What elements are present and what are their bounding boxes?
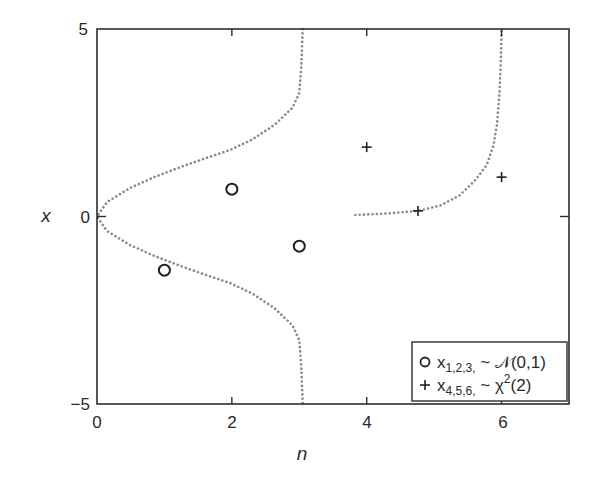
legend-subscript: 4,5,6, xyxy=(446,384,476,398)
legend-dist: ~ χ xyxy=(476,376,504,395)
plus-data-point xyxy=(497,172,507,182)
y-tick-label-5: 5 xyxy=(79,20,88,39)
x-tick-label-0: 0 xyxy=(92,413,101,432)
circle-data-point xyxy=(159,265,170,276)
legend-subscript: 1,2,3, xyxy=(446,361,476,375)
x-tick-label-2: 2 xyxy=(227,413,236,432)
legend-entry-chisq: x4,5,6, ~ χ2(2) xyxy=(420,372,531,398)
y-tick-label-neg5: −5 xyxy=(71,395,90,414)
x-tick-label-6: 6 xyxy=(498,413,507,432)
x-axis-label: n xyxy=(297,443,308,464)
data-markers xyxy=(159,142,507,276)
legend-dist-tail: (2) xyxy=(511,376,532,395)
chart: 0 2 4 6 5 0 −5 n x x1,2,3, ~ 𝒩(0,1) x4,5… xyxy=(0,0,599,481)
circle-data-point xyxy=(226,184,237,195)
legend-entry-normal: x1,2,3, ~ 𝒩(0,1) xyxy=(421,353,546,375)
legend-dist: ~ 𝒩(0,1) xyxy=(476,353,546,372)
plus-data-point xyxy=(413,206,423,216)
plus-data-point xyxy=(362,142,372,152)
y-tick-label-0: 0 xyxy=(81,208,90,227)
normal-density-curve xyxy=(97,29,303,404)
circle-data-point xyxy=(294,241,305,252)
y-axis-label: x xyxy=(40,205,52,226)
chisq-density-curve xyxy=(355,29,501,215)
x-tick-label-4: 4 xyxy=(362,413,371,432)
legend: x1,2,3, ~ 𝒩(0,1) x4,5,6, ~ χ2(2) xyxy=(412,342,567,401)
